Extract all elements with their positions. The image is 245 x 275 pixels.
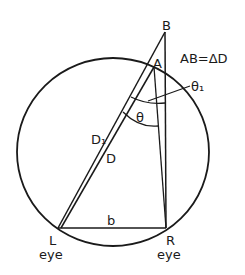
D-label: D <box>106 151 116 166</box>
line-L-B <box>58 32 165 228</box>
right-eye-label: eye <box>157 247 181 262</box>
theta1-label: θ₁ <box>191 79 204 94</box>
equation-label: AB=ΔD <box>180 51 228 66</box>
line-R-A <box>154 67 166 228</box>
theta1-leader <box>148 86 190 101</box>
stereo-geometry-diagram: B A AB=ΔD θ₁ θ D₁ D b L R eye eye <box>0 0 245 275</box>
line-R-B <box>165 32 166 228</box>
point-B-label: B <box>162 18 171 33</box>
point-A-label: A <box>153 56 162 71</box>
D1-label: D₁ <box>91 132 106 147</box>
left-eye-label: eye <box>39 247 63 262</box>
line-L-A <box>61 67 154 228</box>
baseline-b-label: b <box>107 213 115 228</box>
theta-label: θ <box>136 110 144 125</box>
point-R-label: R <box>166 233 175 248</box>
point-L-label: L <box>49 233 57 248</box>
